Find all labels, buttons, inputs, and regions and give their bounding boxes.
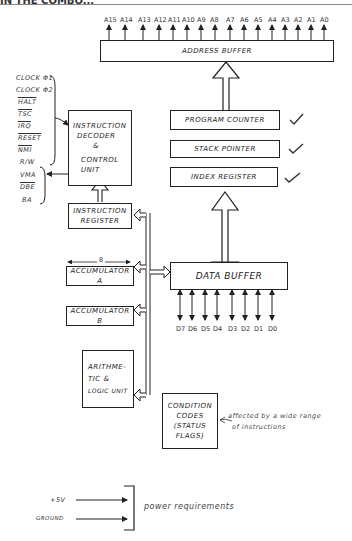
control-input-label: IRQ (18, 122, 31, 130)
address-line-label: A15 (104, 16, 117, 24)
condition-codes-note: affected by a wide range (228, 412, 321, 420)
control-output-label: DBE (20, 183, 35, 191)
address-line-label: A7 (226, 16, 235, 24)
program-counter-label: PROGRAM COUNTER (185, 115, 265, 125)
instruction-register-label-line: REGISTER (81, 216, 120, 226)
condition-codes-label-line: (STATUS (174, 421, 206, 431)
address-buffer-label: ADDRESS BUFFER (182, 46, 252, 56)
address-line-label: A8 (210, 16, 219, 24)
control-output-label: BA (22, 196, 32, 204)
address-line-label: A1 (307, 16, 316, 24)
data-buffer-label: DATA BUFFER (196, 271, 263, 281)
power-plus-label: +5V (50, 496, 66, 504)
condition-codes-label-line: CODES (176, 411, 203, 421)
accumulator-a-block: ACCUMULATOR A (66, 266, 134, 286)
decoder-label-line: INSTRUCTION (73, 121, 126, 131)
stack-pointer-label: STACK POINTER (194, 144, 256, 154)
alu-block: ARITHME- TIC & LOGIC UNIT (82, 350, 134, 408)
control-input-label: CLOCK Φ2 (16, 86, 53, 94)
program-counter-block: PROGRAM COUNTER (170, 110, 280, 130)
instruction-decoder-block: INSTRUCTION DECODER & CONTROL UNIT (68, 110, 132, 186)
address-line-label: A9 (197, 16, 206, 24)
accumulator-b-block: ACCUMULATOR B (66, 306, 134, 326)
data-line-label: D2 (241, 325, 250, 333)
alu-label-line: ARITHME- (88, 362, 126, 372)
data-line-label: D5 (201, 325, 210, 333)
accumulator-b-label: ACCUMULATOR B (67, 306, 133, 326)
address-line-label: A6 (240, 16, 249, 24)
control-input-label: CLOCK Φ1 (16, 74, 53, 82)
decoder-label-line: CONTROL (73, 155, 119, 165)
bit-width-label: 8 (97, 256, 105, 264)
data-buffer-block: DATA BUFFER (170, 262, 288, 290)
address-line-label: A12 (154, 16, 167, 24)
data-line-label: D7 (176, 325, 185, 333)
control-input-label: RESET (18, 134, 41, 142)
data-line-label: D1 (254, 325, 263, 333)
stack-pointer-block: STACK POINTER (170, 140, 280, 158)
index-register-block: INDEX REGISTER (170, 167, 278, 187)
index-register-label: INDEX REGISTER (191, 172, 257, 182)
address-line-label: A14 (120, 16, 133, 24)
control-output-label: VMA (20, 171, 36, 179)
condition-codes-label-line: CONDITION (168, 401, 213, 411)
address-line-label: A2 (294, 16, 303, 24)
control-input-label: TSC (18, 110, 32, 118)
alu-label-line: LOGIC UNIT (88, 386, 128, 396)
power-ground-label: GROUND (36, 515, 64, 521)
condition-codes-note: of instructions (232, 423, 286, 431)
decoder-label-line: UNIT (73, 165, 100, 175)
data-line-label: D3 (228, 325, 237, 333)
data-line-label: D4 (213, 325, 222, 333)
decoder-label-line: DECODER (73, 131, 115, 141)
address-line-label: A10 (182, 16, 195, 24)
alu-label-line: TIC & (88, 374, 109, 384)
instruction-register-label-line: INSTRUCTION (73, 206, 126, 216)
condition-codes-block: CONDITION CODES (STATUS FLAGS) (162, 393, 218, 449)
control-input-label: HALT (18, 98, 37, 106)
instruction-register-block: INSTRUCTION REGISTER (68, 203, 132, 229)
address-line-label: A11 (168, 16, 181, 24)
condition-codes-label-line: FLAGS) (176, 431, 204, 441)
control-input-label: NMI (18, 146, 32, 154)
control-output-label: R/W (20, 158, 35, 166)
data-line-label: D0 (268, 325, 277, 333)
address-line-label: A5 (254, 16, 263, 24)
address-line-label: A13 (138, 16, 151, 24)
power-requirements-note: power requirements (144, 502, 234, 511)
data-line-label: D6 (188, 325, 197, 333)
address-line-label: A4 (268, 16, 277, 24)
address-line-label: A0 (320, 16, 329, 24)
decoder-label-line: & (73, 141, 99, 151)
address-line-label: A3 (281, 16, 290, 24)
address-buffer-block: ADDRESS BUFFER (100, 40, 334, 62)
accumulator-a-label: ACCUMULATOR A (67, 266, 133, 286)
